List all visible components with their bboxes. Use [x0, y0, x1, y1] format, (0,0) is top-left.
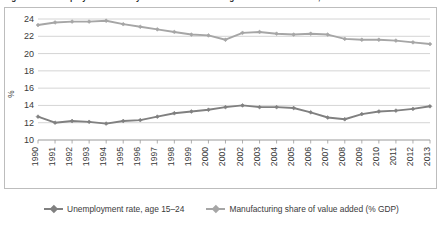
- y-axis-tick-16: 16: [24, 83, 34, 93]
- line-chart-plot: 1012141618202224 % 199019911992199319941…: [5, 8, 436, 188]
- data-point: [275, 32, 279, 36]
- data-point: [411, 107, 415, 111]
- legend-marker-unemployment-rate: [44, 206, 63, 213]
- series-line-0: [38, 105, 430, 123]
- legend-item-manufacturing-share[interactable]: Manufacturing share of value added (% GD…: [206, 204, 398, 214]
- data-point: [411, 40, 415, 44]
- y-axis-tick-10: 10: [24, 135, 34, 145]
- x-axis-tick-2002: 2002: [235, 147, 245, 166]
- x-axis-tick-1994: 1994: [98, 147, 108, 166]
- data-point: [138, 118, 142, 122]
- data-point: [241, 104, 245, 108]
- x-axis-tick-1999: 1999: [183, 147, 193, 166]
- figure-title: Figure 2.4. Unemployment rate of youth a…: [4, 0, 440, 2]
- x-axis-tick-2009: 2009: [354, 147, 364, 166]
- x-axis-tick-2005: 2005: [286, 147, 296, 166]
- x-axis-tick-1998: 1998: [166, 147, 176, 166]
- x-axis-ticklabels: 1990199119921993199419951996199719981999…: [30, 147, 432, 166]
- y-axis-tick-22: 22: [24, 31, 34, 41]
- y-axis-ticklabels: 1012141618202224: [24, 14, 34, 145]
- data-point: [377, 110, 381, 114]
- legend-item-unemployment-rate[interactable]: Unemployment rate, age 15–24: [44, 204, 184, 214]
- x-axis-tick-2007: 2007: [320, 147, 330, 166]
- data-point: [172, 111, 176, 115]
- data-point: [104, 122, 108, 126]
- legend-marker-manufacturing-share: [206, 206, 225, 213]
- x-axis-tick-2006: 2006: [303, 147, 313, 166]
- x-axis-ticks: [38, 140, 430, 144]
- x-axis-tick-1997: 1997: [149, 147, 159, 166]
- legend-label-manufacturing-share: Manufacturing share of value added (% GD…: [229, 204, 398, 214]
- data-point: [292, 106, 296, 110]
- x-axis-tick-2008: 2008: [337, 147, 347, 166]
- data-point: [377, 38, 381, 42]
- data-point: [53, 21, 57, 25]
- plot-frame: 1012141618202224 % 199019911992199319941…: [4, 7, 437, 189]
- x-axis-tick-2003: 2003: [252, 147, 262, 166]
- x-axis-tick-2000: 2000: [200, 147, 210, 166]
- x-axis-tick-2001: 2001: [217, 147, 227, 166]
- series-markers: [36, 19, 432, 126]
- data-point: [172, 30, 176, 34]
- x-axis-tick-1992: 1992: [64, 147, 74, 166]
- data-point: [155, 115, 159, 119]
- x-axis-tick-2012: 2012: [405, 147, 415, 166]
- data-point: [394, 109, 398, 113]
- data-point: [36, 23, 40, 27]
- x-axis-tick-2011: 2011: [388, 147, 398, 166]
- data-point: [258, 30, 262, 34]
- data-point: [394, 39, 398, 43]
- x-axis-tick-1995: 1995: [115, 147, 125, 166]
- x-axis-tick-1993: 1993: [81, 147, 91, 166]
- figure-container: Figure 2.4. Unemployment rate of youth a…: [0, 0, 443, 226]
- x-axis-tick-2013: 2013: [422, 147, 432, 166]
- series-line-1: [38, 21, 430, 44]
- legend-label-unemployment-rate: Unemployment rate, age 15–24: [67, 204, 184, 214]
- data-point: [87, 120, 91, 124]
- data-point: [138, 25, 142, 29]
- x-axis-tick-2004: 2004: [269, 147, 279, 166]
- y-axis-label: %: [7, 90, 16, 97]
- data-point: [207, 34, 211, 38]
- data-point: [155, 27, 159, 31]
- data-point: [70, 20, 74, 24]
- x-axis-tick-1991: 1991: [47, 147, 57, 166]
- data-point: [428, 42, 432, 46]
- data-point: [121, 22, 125, 26]
- y-axis-tick-12: 12: [24, 118, 34, 128]
- data-point: [360, 38, 364, 42]
- y-axis-tick-14: 14: [24, 100, 34, 110]
- data-point: [207, 108, 211, 112]
- data-point: [309, 32, 313, 36]
- data-point: [87, 20, 91, 24]
- chart-legend: Unemployment rate, age 15–24 Manufacturi…: [0, 198, 443, 220]
- x-axis-tick-1990: 1990: [30, 147, 40, 166]
- y-axis-tick-20: 20: [24, 49, 34, 59]
- y-axis-tick-24: 24: [24, 14, 34, 24]
- data-point: [189, 110, 193, 114]
- y-axis-tick-18: 18: [24, 66, 34, 76]
- x-axis-tick-1996: 1996: [132, 147, 142, 166]
- x-axis-tick-2010: 2010: [371, 147, 381, 166]
- data-point: [428, 104, 432, 108]
- data-point: [343, 37, 347, 41]
